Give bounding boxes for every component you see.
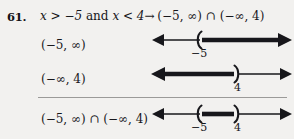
tick-label-4-row2: 4 bbox=[234, 81, 241, 94]
interval-label-3: (−5, ∞) ∩ (−∞, 4) bbox=[41, 112, 148, 126]
worksheet-page: 61. x > −5 and x < 4→ (−5, ∞) ∩ (−∞, 4) … bbox=[0, 0, 294, 139]
number-line-2: 4 bbox=[150, 64, 294, 94]
interval-label-1: (−5, ∞) bbox=[41, 38, 86, 52]
section-divider bbox=[38, 97, 287, 98]
statement-lhs: x > −5 bbox=[40, 9, 82, 23]
statement-rhs: x < 4 bbox=[112, 9, 144, 23]
tick-label-4-row3: 4 bbox=[234, 121, 241, 134]
implies-arrow: → bbox=[144, 9, 153, 23]
interval-label-2: (−∞, 4) bbox=[41, 72, 86, 86]
tick-label-neg5-row3: −5 bbox=[191, 121, 207, 134]
statement-result: (−5, ∞) ∩ (−∞, 4) bbox=[157, 9, 264, 23]
statement-conjunction: and bbox=[86, 9, 109, 23]
number-line-1: −5 bbox=[150, 30, 294, 60]
number-line-3: −5 4 bbox=[150, 104, 294, 134]
problem-number: 61. bbox=[7, 10, 26, 24]
tick-label-neg5-row1: −5 bbox=[191, 47, 207, 60]
problem-statement: x > −5 and x < 4→ (−5, ∞) ∩ (−∞, 4) bbox=[40, 9, 264, 23]
